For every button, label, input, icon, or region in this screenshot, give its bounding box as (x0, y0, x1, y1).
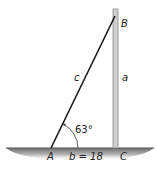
angle-a-label: 63° (75, 125, 93, 135)
triangle-diagram (0, 0, 157, 169)
vertex-c-label: C (120, 152, 127, 162)
side-b-label: b = 18 (69, 152, 103, 162)
vertex-a-label: A (47, 152, 54, 162)
side-c-label: c (74, 73, 80, 83)
pole (113, 9, 118, 148)
vertex-b-label: B (121, 19, 128, 29)
side-a-label: a (122, 73, 128, 83)
